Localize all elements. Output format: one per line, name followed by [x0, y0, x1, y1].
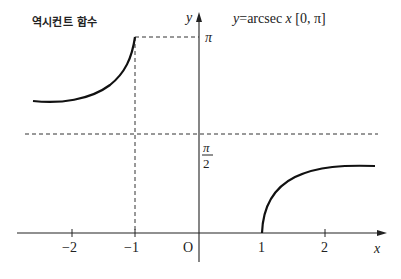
right-branch-curve [262, 166, 375, 233]
x-axis-arrow-icon [377, 230, 387, 236]
x-tick-label-1: 1 [258, 240, 265, 255]
y-axis-arrow-icon [196, 12, 202, 22]
graph-canvas: y π π 2 −2 −1 O 1 2 x [0, 0, 401, 279]
pi-tick-label: π [205, 30, 213, 45]
half-pi-denominator: 2 [203, 156, 210, 171]
x-tick-label-2: 2 [321, 240, 328, 255]
half-pi-numerator: π [203, 140, 210, 155]
x-tick-label-neg1: −1 [124, 240, 139, 255]
left-branch-curve [33, 37, 135, 102]
origin-label: O [183, 240, 193, 255]
y-axis-label: y [184, 10, 193, 25]
x-axis-label: x [373, 241, 381, 256]
x-tick-label-neg2: −2 [62, 240, 77, 255]
